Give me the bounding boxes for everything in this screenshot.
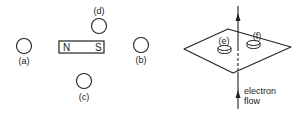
arrow-up-top-icon: [236, 13, 241, 21]
compass-b-label: (b): [136, 55, 147, 65]
electron-flow-label-line1: electron: [244, 86, 276, 96]
compass-e-icon: [218, 46, 231, 54]
compass-b-icon: [134, 38, 149, 53]
compass-d-icon: [92, 19, 107, 34]
diagram-canvas: N S (a) (b) (c) (d) (e): [0, 0, 305, 117]
magnet-south-label: S: [95, 42, 102, 53]
compass-a-label: (a): [19, 56, 30, 66]
compass-c-icon: [77, 74, 92, 89]
wire-card-diagram: (e) (f) electron flow: [184, 6, 291, 109]
magnet-north-label: N: [63, 42, 70, 53]
compass-f-icon: [247, 41, 260, 49]
compass-c-label: (c): [79, 92, 90, 102]
compass-f-label: (f): [253, 31, 262, 41]
compass-d-label: (d): [94, 6, 105, 16]
compass-e-label: (e): [219, 36, 230, 46]
arrow-up-bottom-icon: [236, 90, 241, 98]
compass-a-icon: [17, 39, 32, 54]
electron-flow-label-line2: flow: [244, 96, 261, 106]
bar-magnet-diagram: N S (a) (b) (c) (d): [17, 6, 149, 102]
